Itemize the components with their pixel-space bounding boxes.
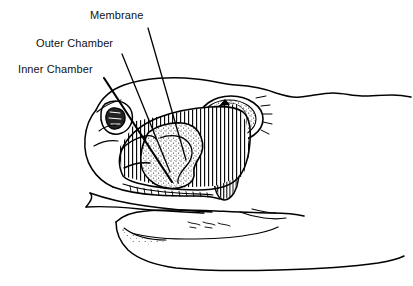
snout-crease-lower <box>94 141 118 146</box>
label-membrane: Membrane <box>90 9 143 21</box>
lower-jaw-outline <box>116 222 404 271</box>
chin-groove-marks <box>188 222 230 228</box>
tongue-tip <box>86 193 92 207</box>
label-inner-chamber: Inner Chamber <box>18 63 93 75</box>
label-outer-chamber: Outer Chamber <box>36 37 113 49</box>
chin-scale-seam <box>123 227 278 239</box>
inner-chamber-fill <box>141 123 203 189</box>
